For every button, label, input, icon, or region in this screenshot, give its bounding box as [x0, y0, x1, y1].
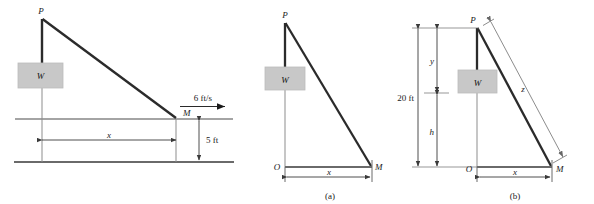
panel-b-dimension-h-label: h — [430, 127, 435, 137]
panel-b-rope-diagonal — [478, 28, 552, 166]
panel-main: W P M 6 ft/s x 5 ft — [14, 6, 234, 162]
point-label-p: P — [37, 6, 44, 16]
panel-b-caption: (b) — [510, 191, 521, 201]
panel-b-dimension-x-label: x — [512, 167, 517, 177]
panel-b-z-ext-bottom — [553, 155, 567, 163]
panel-a-point-label-o: O — [274, 162, 281, 172]
dimension-x-label: x — [106, 130, 111, 140]
panel-b-point-label-o: O — [466, 164, 473, 174]
panel-b-point-label-p: P — [469, 15, 476, 25]
panel-b-dimension-y-label: y — [429, 56, 434, 66]
panel-a-point-label-p: P — [281, 10, 288, 20]
figure-svg: W P M 6 ft/s x 5 ft — [0, 0, 594, 204]
panel-b: 20 ft y h z W P M O x — [397, 15, 567, 201]
panel-a-dimension-x-label: x — [326, 167, 331, 177]
velocity-label: 6 ft/s — [194, 93, 213, 103]
panel-b-point-label-m: M — [555, 164, 564, 174]
panel-b-dimension-z-label: z — [520, 84, 525, 94]
dimension-5ft-label: 5 ft — [206, 135, 219, 145]
panel-a-caption: (a) — [325, 191, 335, 201]
panel-b-dimension-z-line — [491, 22, 563, 157]
panel-b-dimension-total-label: 20 ft — [397, 93, 414, 103]
panel-a-point-label-m: M — [374, 162, 383, 172]
panel-a: W P M O x (a) — [265, 10, 383, 201]
panel-a-rope-diagonal — [286, 23, 372, 166]
point-label-m: M — [182, 108, 191, 118]
figure-root: W P M 6 ft/s x 5 ft — [0, 0, 594, 204]
